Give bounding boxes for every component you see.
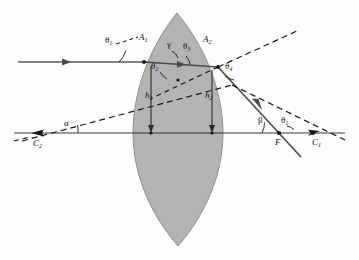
label-theta4: θ4 <box>225 62 232 71</box>
point-A1 <box>142 60 146 64</box>
point-lens-center <box>176 78 179 81</box>
arc-alpha <box>78 125 79 133</box>
label-A1: A1 <box>139 33 148 42</box>
label-beta: β <box>258 116 263 125</box>
label-theta1-incident: θ1 <box>105 36 112 45</box>
label-C2: C2 <box>33 139 42 148</box>
label-alpha: α <box>64 119 69 128</box>
label-F: F <box>275 138 281 147</box>
diagram-canvas <box>0 0 359 260</box>
normal-line-A1-extension <box>232 85 345 140</box>
label-h2: h2 <box>205 91 213 100</box>
label-C1: C1 <box>312 138 321 147</box>
optics-ray-diagram: θ1 A1 γ θ3 A2 θ2 θ4 h1 h2 α C2 β θ1 F C1 <box>0 0 359 260</box>
point-A2 <box>216 65 220 69</box>
lens-body <box>133 13 223 246</box>
arc-theta1-exit <box>287 126 294 130</box>
point-h2-foot <box>210 131 213 134</box>
arc-theta1-incident <box>119 51 126 63</box>
theta1-guide-dash <box>116 37 138 44</box>
label-gamma: γ <box>167 40 171 49</box>
label-theta3: θ3 <box>183 42 190 51</box>
point-F <box>277 131 281 135</box>
label-theta2: θ2 <box>151 62 158 71</box>
point-h1-foot <box>149 131 152 134</box>
label-A2: A2 <box>203 35 212 44</box>
incident-ray-arrow <box>62 59 71 66</box>
label-h1: h1 <box>145 91 153 100</box>
label-theta1-exit: θ1 <box>281 116 288 125</box>
